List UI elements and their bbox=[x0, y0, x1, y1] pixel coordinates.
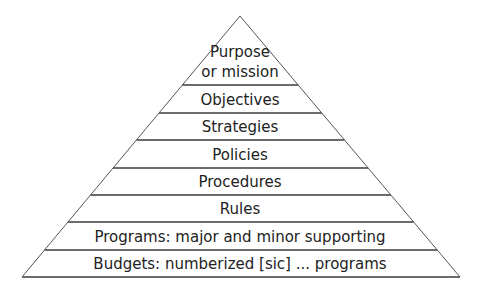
tier-label: Strategies bbox=[202, 118, 279, 136]
tier-label: Objectives bbox=[201, 91, 280, 109]
tier-label: Procedures bbox=[198, 173, 281, 191]
tier-labels: Purposeor missionObjectivesStrategiesPol… bbox=[93, 43, 386, 273]
tier-label: or mission bbox=[201, 63, 278, 81]
tier-label: Programs: major and minor supporting bbox=[94, 228, 385, 246]
tier-label: Purpose bbox=[210, 43, 270, 61]
tier-label: Rules bbox=[220, 200, 261, 218]
hierarchy-pyramid: Purposeor missionObjectivesStrategiesPol… bbox=[0, 0, 480, 291]
tier-label: Budgets: numberized [sic] ... programs bbox=[93, 255, 386, 273]
tier-label: Policies bbox=[212, 146, 268, 164]
